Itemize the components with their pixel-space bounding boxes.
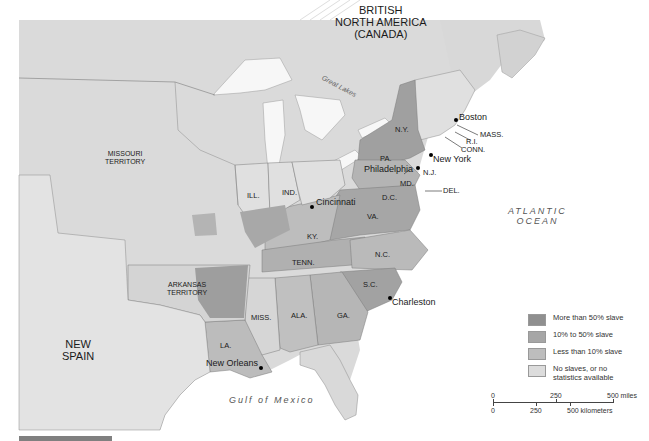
label-state-nj: N.J. [423,169,436,177]
label-missouri-territory: MISSOURI TERRITORY [105,150,145,165]
label-line: TERRITORY [105,158,145,166]
label-city-philadelphia: Philadelphia [364,165,413,175]
label-arkansas-territory: ARKANSAS TERRITORY [167,281,207,296]
label-new-spain: NEW SPAIN [62,338,94,362]
label-line: BRITISH [335,4,426,16]
scale-bar: 0 250 500 miles 0 250 500 kilometers [490,392,640,422]
pointer-conn [445,137,462,148]
label-state-va: VA. [367,213,379,221]
label-line: NORTH AMERICA [335,16,426,28]
label-state-ind: IND. [282,189,297,197]
legend-swatch [528,348,546,360]
legend-label: More than 50% slave [553,314,638,323]
legend-item-none: No slaves, or no statistics available [528,365,638,382]
map-legend: More than 50% slave 10% to 50% slave Les… [528,314,638,387]
label-city-charleston: Charleston [392,298,436,308]
legend-swatch [528,331,546,343]
legend-item-high: More than 50% slave [528,314,638,326]
label-state-md: MD. [400,180,414,188]
label-gulf-of-mexico: Gulf of Mexico [229,396,315,406]
label-state-pa: PA. [380,155,392,163]
label-state-ill: ILL. [247,192,260,200]
label-state-miss: MISS. [251,314,271,322]
label-state-nc: N.C. [375,251,390,259]
city-dot-new-orleans [259,366,263,370]
legend-label: Less than 10% slave [553,348,638,357]
scale-miles-zero: 0 [491,392,495,399]
label-state-sc: S.C. [363,281,378,289]
label-state-del: DEL. [443,187,460,195]
scale-tick [570,402,571,406]
label-atlantic-ocean: ATLANTIC OCEAN [508,207,567,227]
legend-swatch [528,314,546,326]
label-city-new-orleans: New Orleans [206,359,258,369]
scale-km-zero: 0 [491,407,495,414]
scale-miles-mid: 250 [550,392,562,399]
label-line: SPAIN [62,350,94,362]
legend-item-mid: 10% to 50% slave [528,331,638,343]
label-line: MISSOURI [105,150,145,158]
label-state-la: LA. [220,342,231,350]
scale-tick [493,399,494,406]
label-line: ARKANSAS [167,281,207,289]
legend-item-low: Less than 10% slave [528,348,638,360]
label-british-north-america: BRITISH NORTH AMERICA (CANADA) [335,4,426,40]
scale-tick [556,399,557,403]
legend-label: 10% to 50% slave [553,331,638,340]
new-england [412,70,475,140]
region-missouri-slave2 [192,213,217,236]
label-state-ny: N.Y. [395,126,409,134]
label-state-mass: MASS. [480,131,503,139]
label-line: (CANADA) [335,28,426,40]
scale-km-end: 500 kilometers [567,407,613,414]
scale-line [493,402,613,403]
scale-tick [613,399,614,403]
legend-swatch [528,365,546,377]
label-city-boston: Boston [459,113,487,123]
nova-scotia [497,30,545,78]
scale-km-mid: 250 [530,407,542,414]
label-state-ky: KY. [307,233,318,241]
label-state-ala: ALA. [291,312,307,320]
pointer-mass [457,125,478,135]
label-state-ga: GA. [337,312,350,320]
legend-label: No slaves, or no statistics available [553,365,638,382]
city-dot-boston [454,118,458,122]
label-line: NEW [62,338,94,350]
label-city-cincinnati: Cincinnati [316,198,356,208]
scale-tick [536,402,537,406]
caption-bar [19,436,112,441]
city-dot-cincinnati [310,205,314,209]
label-line: OCEAN [508,217,567,227]
city-dot-philadelphia [416,166,420,170]
label-line: TERRITORY [167,289,207,297]
label-state-conn: CONN. [461,146,485,154]
label-state-tenn: TENN. [292,259,315,267]
scale-miles-end: 500 miles [607,392,637,399]
label-state-dc: D.C. [382,194,397,202]
label-city-new-york: New York [433,155,471,165]
